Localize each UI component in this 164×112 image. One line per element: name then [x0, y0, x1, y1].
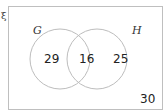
intersection-count: 16	[79, 52, 94, 66]
g-only-count: 29	[44, 52, 59, 66]
set-h-label: H	[132, 24, 142, 37]
outside-count: 30	[140, 92, 155, 106]
h-only-count: 25	[113, 52, 128, 66]
set-g-label: G	[33, 24, 42, 37]
